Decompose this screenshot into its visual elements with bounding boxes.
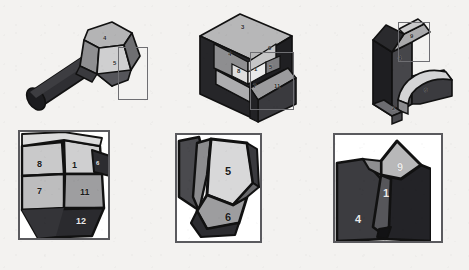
facet-label: 1	[72, 160, 77, 170]
detail-view-bolt-facets: 8 1 6 7 11 12	[18, 130, 110, 240]
facet-label: 4	[355, 213, 362, 225]
detail-view-block-facets: 5 6	[175, 133, 262, 243]
facet-label: 1	[383, 187, 389, 199]
callout-frame-bracket	[398, 22, 430, 62]
overview-block: 3 4 9 8 1 5 7 11	[170, 0, 320, 130]
facet-label: 5	[225, 165, 231, 177]
facet-label: 9	[397, 161, 403, 173]
facet-label: 8	[37, 159, 42, 169]
callout-frame-block	[250, 52, 294, 110]
detail-view-bracket-facets: 9 1 4	[333, 133, 443, 243]
facet-label: 11	[80, 187, 90, 197]
facet-label: 6	[225, 211, 231, 223]
callout-frame-bolt	[118, 47, 148, 100]
overview-bracket: 9 4 6 2	[320, 0, 469, 130]
facet-label: 7	[37, 186, 42, 196]
facet-label: 12	[76, 216, 86, 226]
figure-canvas: 4 5 3 4 9	[0, 0, 469, 270]
